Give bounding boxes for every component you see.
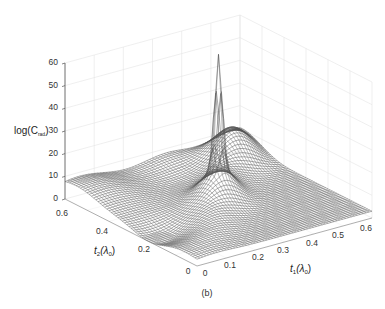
t2-tick: 0.6 <box>56 208 68 218</box>
t1-tick: 0 <box>203 268 208 278</box>
z-tick: 60 <box>49 57 59 67</box>
z-tick: 30 <box>49 125 59 135</box>
surface-plot: 0 10 20 30 40 50 60 log(Crad) 0 0.2 0.4 … <box>0 0 385 309</box>
z-tick: 20 <box>49 148 59 158</box>
t2-tick: 0.4 <box>96 226 108 236</box>
z-tick: 50 <box>49 80 59 90</box>
t1-axis-label: t1(λ0) <box>290 263 311 275</box>
t2-tick: 0.2 <box>138 244 150 254</box>
t1-tick: 0.3 <box>277 245 289 255</box>
z-tick: 10 <box>49 170 59 180</box>
wireframe-surface <box>65 54 372 259</box>
z-tick-labels: 0 10 20 30 40 50 60 <box>49 57 59 203</box>
z-axis-label: log(Crad) <box>14 125 48 137</box>
z-tick: 40 <box>49 102 59 112</box>
t2-tick: 0 <box>186 266 191 276</box>
t1-tick: 0.1 <box>224 260 236 270</box>
t1-tick: 0.2 <box>252 252 264 262</box>
figure-caption: (b) <box>202 288 213 298</box>
t1-tick: 0.6 <box>360 223 372 233</box>
t1-tick: 0.4 <box>306 238 318 248</box>
z-tick: 0 <box>53 193 58 203</box>
t1-tick: 0.5 <box>332 230 344 240</box>
t2-axis-label: t2(λ0) <box>94 245 115 257</box>
